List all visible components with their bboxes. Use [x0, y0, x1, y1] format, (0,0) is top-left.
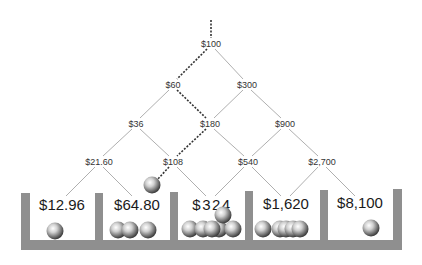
node-label: $2,700	[308, 157, 336, 167]
bin-label: $8,100	[337, 194, 383, 211]
node-label: $36	[128, 119, 143, 129]
bin-labels: $12.96 $64.80 $324 $1,620 $8,100	[39, 194, 383, 213]
tree-nodes: $100 $60 $300 $36 $180 $900 $21.60 $108 …	[85, 39, 336, 167]
ball	[292, 221, 309, 238]
bin-divider	[170, 192, 178, 240]
ball	[122, 222, 139, 239]
bin-wall-right	[393, 189, 402, 250]
node-label: $108	[163, 157, 183, 167]
node-label: $540	[238, 157, 258, 167]
bin-divider	[245, 191, 253, 240]
falling-ball	[144, 177, 161, 194]
node-label: $60	[165, 80, 180, 90]
node-label: $180	[200, 119, 220, 129]
node-label: $300	[237, 80, 257, 90]
bin-label: $12.96	[39, 196, 85, 213]
node-label: $900	[275, 119, 295, 129]
ball	[204, 221, 221, 238]
ball	[47, 223, 64, 240]
node-label: $100	[201, 39, 221, 49]
ball	[363, 220, 380, 237]
ball	[255, 221, 272, 238]
bin-label: $64.80	[114, 196, 160, 213]
bin-wall-left	[21, 193, 30, 250]
bin-base	[21, 240, 401, 250]
node-label: $21.60	[85, 157, 113, 167]
ball	[215, 207, 232, 224]
ball	[140, 222, 157, 239]
ball	[225, 221, 242, 238]
bin-label: $1,620	[263, 195, 309, 212]
bin-divider	[95, 193, 103, 240]
bin-divider	[320, 190, 328, 240]
binomial-tree-diagram: $100 $60 $300 $36 $180 $900 $21.60 $108 …	[0, 0, 422, 265]
